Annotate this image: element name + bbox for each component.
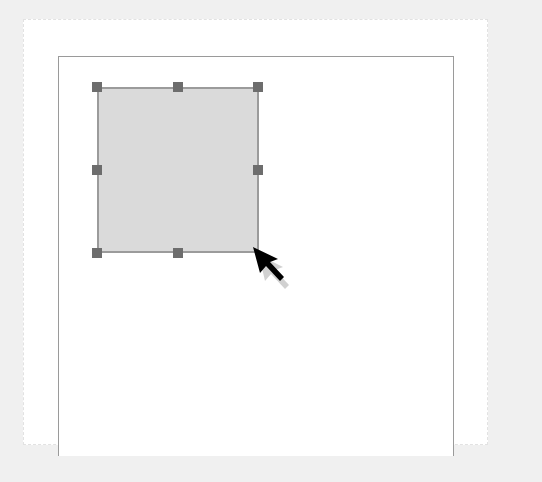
resize-handle-bottom-left[interactable]: [92, 248, 102, 258]
arrow-pointer-icon: [250, 244, 298, 292]
resize-handle-middle-right[interactable]: [253, 165, 263, 175]
resize-handle-bottom-center[interactable]: [173, 248, 183, 258]
resize-handle-top-left[interactable]: [92, 82, 102, 92]
resize-handle-top-right[interactable]: [253, 82, 263, 92]
resize-handle-top-center[interactable]: [173, 82, 183, 92]
selected-rectangle-shape[interactable]: [97, 87, 259, 253]
resize-handle-middle-left[interactable]: [92, 165, 102, 175]
